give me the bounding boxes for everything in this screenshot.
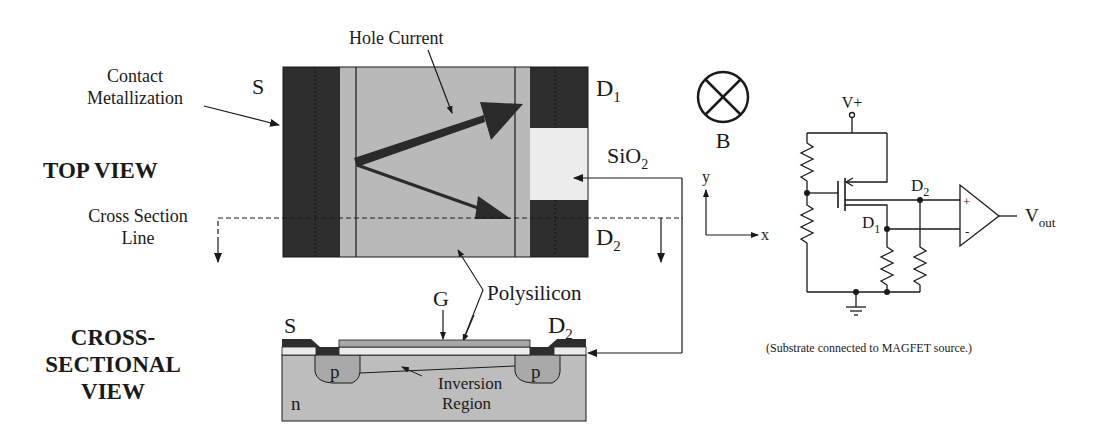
drain1-metal [530,67,588,128]
gate-label: G [433,286,449,311]
opamp-plus-label: + [963,194,970,209]
contact-label-2: Metallization [87,88,183,108]
cross-heading-3: VIEW [81,379,145,404]
d2-circuit-label: D2 [911,176,929,199]
polysilicon-label: Polysilicon [487,281,582,305]
polysilicon-leaders [464,263,483,338]
xy-axes-icon [706,190,758,235]
cross-heading-1: CROSS- [71,325,155,350]
d2-label-top: D2 [596,224,621,254]
contact-leader [204,106,279,125]
resistor-lower-left-icon [801,193,813,292]
axis-x-label: x [761,226,769,243]
magfet-diagram: Contact Metallization S Hole Current D1 … [0,0,1103,443]
top-view-heading: TOP VIEW [43,158,158,183]
circuit-caption: (Substrate connected to MAGFET source.) [766,341,972,355]
resistor-d1-icon [881,229,893,292]
d1-label: D1 [596,75,621,105]
b-field-into-page-icon [698,72,748,122]
b-label: B [716,128,731,153]
gate-oxide [339,347,530,355]
axis-y-label: y [702,168,710,186]
circuit-nodes [804,190,923,295]
inversion-label-2: Region [442,394,492,413]
source-label-cross: S [284,313,296,338]
resistor-upper-left-icon [801,133,813,193]
vout-label: Vout [1025,205,1056,230]
cross-heading-2: SECTIONAL [45,352,180,377]
ground-icon [846,307,866,315]
opamp-minus-label: - [965,224,969,239]
cross-section-label-2: Line [122,228,155,248]
magfet-circuit [801,113,1017,316]
p-left-label: p [330,361,340,382]
source-metal [283,67,340,257]
sio2-gap [530,128,588,200]
poly-gate [339,340,530,347]
inversion-label-1: Inversion [438,374,503,393]
hole-current-label: Hole Current [349,28,443,48]
sio2-label: SiO2 [607,143,648,172]
d2-label-cross: D2 [548,312,573,342]
contact-label-1: Contact [107,66,163,86]
resistor-d2-icon [914,200,926,292]
p-right-label: p [531,361,541,382]
source-label-top: S [252,74,264,99]
top-view-device [283,67,588,257]
cross-section-label-1: Cross Section [88,206,188,226]
vplus-terminal-icon [850,113,855,118]
n-label: n [291,393,301,414]
drain2-metal [530,200,588,257]
d1-circuit-label: D1 [862,213,880,236]
vplus-label: V+ [842,94,863,111]
